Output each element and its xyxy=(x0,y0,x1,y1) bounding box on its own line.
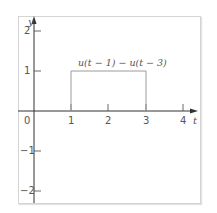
y-tick-label: 2 xyxy=(24,26,30,36)
y-tick-label: −1 xyxy=(20,146,35,156)
x-tick-label: 3 xyxy=(143,116,149,126)
y-tick-label: 1 xyxy=(24,66,30,76)
x-tick-label: 2 xyxy=(105,116,111,126)
curve-annotation: u(t − 1) − u(t − 3) xyxy=(78,58,167,68)
x-tick-label: 4 xyxy=(180,116,186,126)
x-tick-label: 1 xyxy=(68,116,74,126)
y-tick-label: −2 xyxy=(20,186,35,196)
pulse-curve xyxy=(71,71,146,111)
x-axis-arrow-icon xyxy=(190,109,198,114)
x-axis-label: t xyxy=(193,116,197,126)
x-tick-label: 0 xyxy=(24,116,30,126)
plot-area xyxy=(0,0,217,213)
